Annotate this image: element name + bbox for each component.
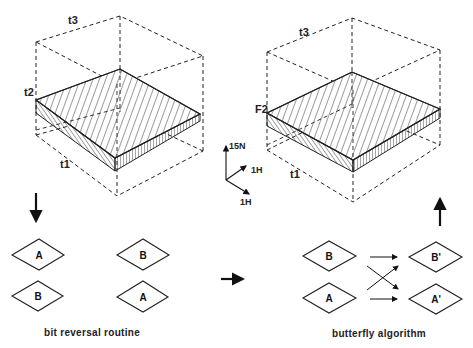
h1-axis-arrow-up bbox=[226, 166, 246, 180]
axes-legend bbox=[226, 146, 249, 194]
butterfly-node-b: B bbox=[325, 251, 332, 262]
n15-label: 15N bbox=[229, 141, 246, 151]
bit-node-a2: A bbox=[139, 292, 146, 303]
h1-label-down: 1H bbox=[240, 197, 252, 207]
right-f2-label: F2 bbox=[255, 103, 268, 115]
butterfly-arrows bbox=[367, 257, 398, 299]
left-t1-label: t1 bbox=[60, 158, 70, 170]
right-t3-label: t3 bbox=[299, 26, 309, 38]
bit-node-b2: B bbox=[139, 250, 146, 261]
butterfly-node-a-prime: A' bbox=[431, 294, 441, 305]
butterfly-node-a: A bbox=[325, 293, 332, 304]
butterfly-caption: butterfly algorithm bbox=[332, 328, 426, 339]
left-t2-label: t2 bbox=[24, 86, 34, 98]
bit-node-b1: B bbox=[34, 291, 41, 302]
h1-axis-arrow-down bbox=[226, 180, 249, 194]
left-cube: t3 t2 t1 bbox=[24, 14, 203, 196]
bit-node-a1: A bbox=[35, 250, 42, 261]
butterfly-node-b-prime: B' bbox=[431, 252, 441, 263]
left-t3-label: t3 bbox=[68, 14, 78, 26]
diagram-canvas: t3 t2 t1 t3 F2 t1 15N 1H 1 bbox=[0, 0, 473, 348]
h1-label-up: 1H bbox=[251, 165, 263, 175]
bit-reversal-caption: bit reversal routine bbox=[44, 327, 140, 338]
right-t1-label: t1 bbox=[290, 168, 300, 180]
right-cube: t3 F2 t1 bbox=[255, 18, 440, 202]
